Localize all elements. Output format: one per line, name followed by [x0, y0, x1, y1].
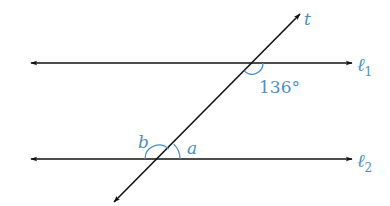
- diagram-canvas: t ℓ1 ℓ2 136° a b: [0, 0, 390, 206]
- line-l1-label: ℓ1: [357, 54, 372, 79]
- transversal-label: t: [304, 9, 311, 29]
- angle-136-label: 136°: [259, 77, 300, 97]
- angle-a-label: a: [187, 138, 197, 158]
- line-l2-label: ℓ2: [357, 150, 372, 175]
- angle-b-label: b: [138, 132, 149, 152]
- transversal-t: [114, 14, 300, 202]
- angle-a-arc: [174, 144, 180, 159]
- transversal-segment: [114, 14, 300, 202]
